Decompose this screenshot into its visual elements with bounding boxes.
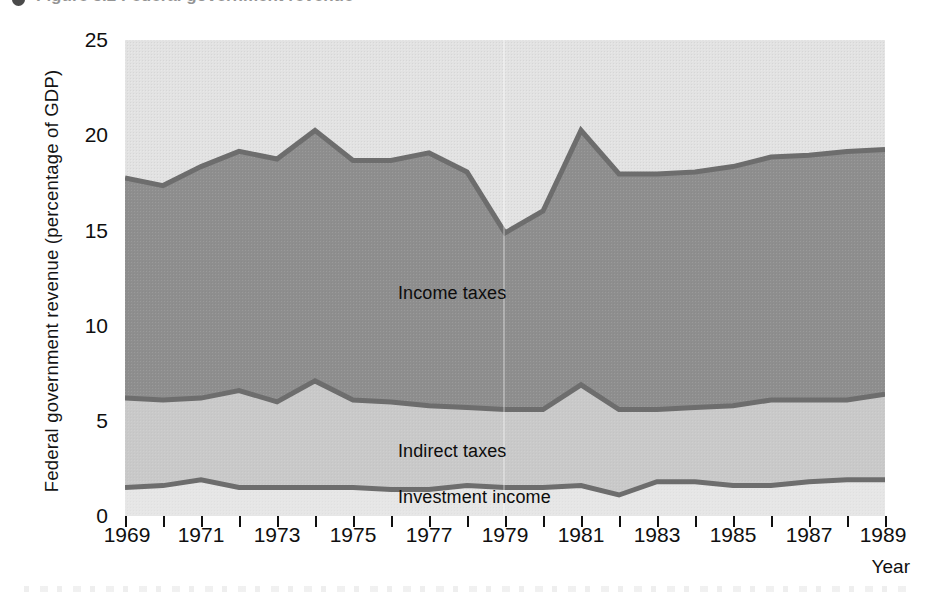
x-tick-label-1975: 1975 [318,524,388,545]
x-tick-mark-1970 [163,516,165,527]
y-tick-label-0: 0 [64,505,108,526]
x-tick-label-1985: 1985 [698,524,768,545]
x-tick-mark-1978 [467,516,469,527]
scan-artifact [24,586,908,592]
x-tick-mark-1986 [771,516,773,527]
figure-caption-strip: Figure 5.2 Federal government revenue [0,0,932,12]
x-tick-label-1989: 1989 [848,524,918,545]
x-tick-label-1981: 1981 [546,524,616,545]
x-tick-label-1973: 1973 [242,524,312,545]
x-tick-mark-1974 [315,516,317,527]
x-axis-title: Year [872,556,910,578]
y-tick-label-20: 20 [64,124,108,145]
y-tick-label-15: 15 [64,220,108,241]
x-tick-mark-1980 [543,516,545,527]
x-tick-label-1977: 1977 [394,524,464,545]
series-label-indirect-taxes: Indirect taxes [398,441,506,462]
x-tick-mark-1982 [619,516,621,527]
x-tick-mark-1984 [695,516,697,527]
x-tick-label-1987: 1987 [774,524,844,545]
y-tick-label-5: 5 [64,410,108,431]
x-tick-label-1969: 1969 [92,524,162,545]
x-tick-mark-1972 [239,516,241,527]
y-tick-label-10: 10 [64,315,108,336]
x-tick-mark-1976 [391,516,393,527]
x-tick-label-1971: 1971 [166,524,236,545]
series-label-investment-income: Investment income [398,487,551,508]
x-tick-label-1979: 1979 [470,524,540,545]
y-tick-label-25: 25 [64,29,108,50]
bullet-icon [12,0,25,6]
series-label-income-taxes: Income taxes [398,283,506,304]
y-axis-ticks: 0 5 10 15 20 25 [58,0,108,596]
figure-container: Figure 5.2 Federal government revenue Fe… [0,0,932,596]
x-tick-label-1983: 1983 [622,524,692,545]
